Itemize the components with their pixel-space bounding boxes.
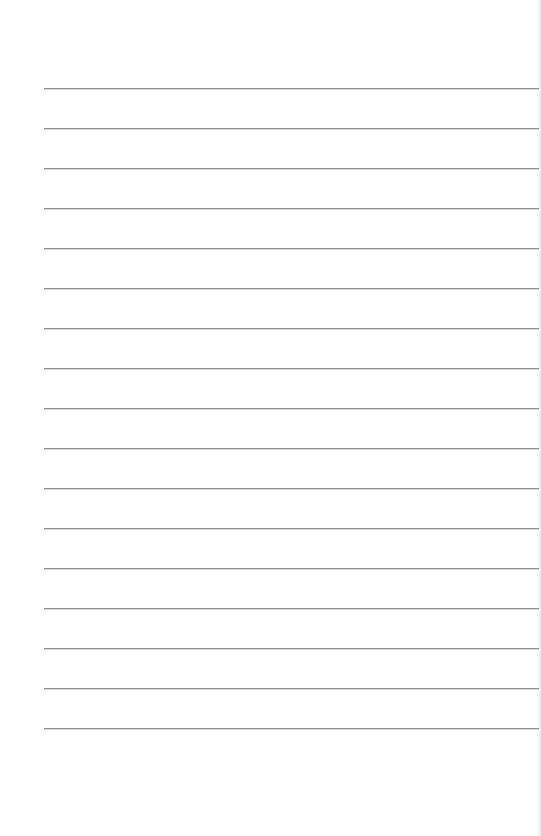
ruled-line <box>44 648 539 649</box>
ruled-line <box>44 408 539 409</box>
ruled-line <box>44 88 539 89</box>
ruled-line <box>44 528 539 529</box>
ruled-line <box>44 288 539 289</box>
ruled-line <box>44 328 539 329</box>
ruled-line <box>44 128 539 129</box>
ruled-line <box>44 208 539 209</box>
ruled-line <box>44 168 539 169</box>
lined-paper-page <box>0 0 541 836</box>
ruled-line <box>44 368 539 369</box>
ruled-line <box>44 568 539 569</box>
ruled-line <box>44 688 539 689</box>
ruled-line <box>44 728 539 729</box>
page-right-edge <box>537 0 541 836</box>
ruled-line <box>44 448 539 449</box>
ruled-line <box>44 248 539 249</box>
ruled-line <box>44 608 539 609</box>
ruled-line <box>44 488 539 489</box>
